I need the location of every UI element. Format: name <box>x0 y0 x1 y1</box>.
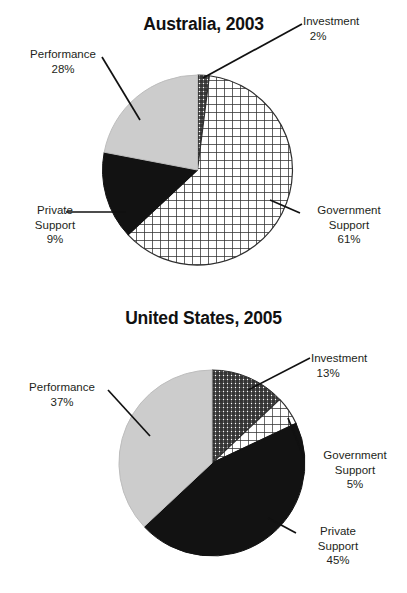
pie-chart-united-states-2005: United States, 2005 Investment 1 <box>0 296 407 593</box>
callout-value-performance: 28% <box>20 62 106 77</box>
callout-label2-private-support: Support <box>12 218 98 233</box>
callout-label2-government-support: Support <box>306 463 404 478</box>
leader-line-investment <box>203 24 302 78</box>
callout-label-government-support: Government <box>323 449 386 461</box>
callout-private-support: Private Support 9% <box>12 203 98 247</box>
pie-chart-australia-2003: Australia, 2003 Investment 2% <box>0 0 407 296</box>
callout-value-government-support: 61% <box>303 232 395 247</box>
callout-label2-private-support: Support <box>296 539 380 554</box>
callout-value-performance: 37% <box>16 395 108 410</box>
callout-value-investment: 2% <box>303 29 359 44</box>
callout-value-investment: 13% <box>311 366 367 381</box>
callout-label-private-support: Private <box>37 204 73 216</box>
callout-label-investment: Investment <box>311 352 367 364</box>
callout-value-private-support: 45% <box>296 553 380 568</box>
callout-government-support: Government Support 5% <box>306 448 404 492</box>
callout-label-investment: Investment <box>303 15 359 27</box>
callout-value-private-support: 9% <box>12 232 98 247</box>
callout-value-government-support: 5% <box>306 477 404 492</box>
callout-label-performance: Performance <box>30 48 96 60</box>
callout-investment: Investment 2% <box>303 14 359 43</box>
leader-line-performance <box>102 57 140 120</box>
callout-performance: Performance 37% <box>16 380 108 409</box>
callout-performance: Performance 28% <box>20 47 106 76</box>
callout-private-support: Private Support 45% <box>296 524 380 568</box>
leader-line-investment <box>248 358 310 390</box>
callout-label-private-support: Private <box>320 525 356 537</box>
callout-label2-government-support: Support <box>303 218 395 233</box>
callout-investment: Investment 13% <box>311 351 367 380</box>
callout-government-support: Government Support 61% <box>303 203 395 247</box>
pie-svg-australia <box>0 0 407 296</box>
callout-label-performance: Performance <box>29 381 95 393</box>
callout-label-government-support: Government <box>317 204 380 216</box>
